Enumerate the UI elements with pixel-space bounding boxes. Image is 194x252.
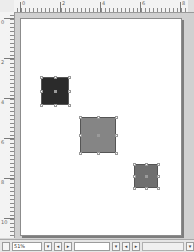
resize-handle[interactable] (133, 175, 136, 178)
ruler-major-tick (4, 18, 14, 19)
resize-handle[interactable] (68, 104, 71, 107)
ruler-label: 8 (1, 179, 4, 185)
arrow-right-icon: ▸ (67, 243, 70, 249)
ruler-label: 4 (102, 0, 105, 6)
ruler-major-tick (20, 2, 21, 12)
ruler-label: 0 (1, 19, 4, 25)
horizontal-scrollbar[interactable] (142, 242, 184, 251)
ruler-major-tick (60, 2, 61, 12)
page-next-button[interactable]: ▸ (64, 242, 72, 251)
arrow-left-icon: ◂ (125, 243, 128, 249)
ruler-label: 6 (142, 0, 145, 6)
layer-combo[interactable] (74, 242, 110, 251)
small-square[interactable] (134, 164, 158, 188)
status-bar: 51% ▾ ◂ ▸ ▾ ◂ ▸ ▾ (0, 239, 194, 252)
center-point-icon (145, 175, 148, 178)
ruler-major-tick (140, 2, 141, 12)
medium-square[interactable] (80, 117, 116, 153)
resize-handle[interactable] (133, 163, 136, 166)
ruler-major-tick (4, 58, 14, 59)
layer-dropdown-button[interactable]: ▾ (112, 242, 120, 251)
resize-handle[interactable] (40, 104, 43, 107)
resize-handle[interactable] (115, 152, 118, 155)
ruler-major-tick (4, 138, 14, 139)
resize-handle[interactable] (40, 90, 43, 93)
resize-handle[interactable] (157, 175, 160, 178)
ruler-label: 10 (1, 219, 7, 225)
zoom-dropdown-button[interactable]: ▾ (44, 242, 52, 251)
view-mode-button[interactable] (2, 242, 10, 251)
zoom-value: 51% (14, 243, 25, 249)
chevron-down-icon: ▾ (115, 243, 118, 249)
ruler-major-tick (180, 2, 181, 12)
resize-handle[interactable] (79, 116, 82, 119)
horizontal-ruler[interactable]: 02468 (14, 0, 194, 13)
zoom-combo[interactable]: 51% (12, 242, 42, 251)
resize-handle[interactable] (40, 76, 43, 79)
ruler-label: 0 (22, 0, 25, 6)
chevron-down-icon: ▾ (47, 243, 50, 249)
right-dropdown-button[interactable]: ▾ (186, 242, 194, 251)
ruler-major-tick (4, 178, 14, 179)
resize-handle[interactable] (79, 134, 82, 137)
resize-handle[interactable] (68, 90, 71, 93)
resize-handle[interactable] (157, 187, 160, 190)
document-page[interactable] (20, 18, 182, 236)
chevron-down-icon: ▾ (189, 243, 192, 249)
ruler-major-tick (4, 98, 14, 99)
resize-handle[interactable] (115, 134, 118, 137)
ruler-label: 8 (182, 0, 185, 6)
resize-handle[interactable] (115, 116, 118, 119)
nav-prev-button[interactable]: ◂ (122, 242, 130, 251)
ruler-label: 6 (1, 139, 4, 145)
vertical-ruler[interactable]: 0246810 (0, 12, 15, 238)
ruler-label: 2 (62, 0, 65, 6)
page-prev-button[interactable]: ◂ (54, 242, 62, 251)
resize-handle[interactable] (133, 187, 136, 190)
arrow-right-icon: ▸ (135, 243, 138, 249)
resize-handle[interactable] (157, 163, 160, 166)
resize-handle[interactable] (68, 76, 71, 79)
center-point-icon (97, 134, 100, 137)
resize-handle[interactable] (145, 187, 148, 190)
ruler-major-tick (100, 2, 101, 12)
resize-handle[interactable] (79, 152, 82, 155)
nav-next-button[interactable]: ▸ (132, 242, 140, 251)
resize-handle[interactable] (54, 104, 57, 107)
resize-handle[interactable] (97, 116, 100, 119)
ruler-label: 2 (1, 59, 4, 65)
ruler-end-cap (188, 0, 194, 12)
dark-square[interactable] (41, 77, 69, 105)
center-point-icon (54, 90, 57, 93)
ruler-label: 4 (1, 99, 4, 105)
resize-handle[interactable] (97, 152, 100, 155)
arrow-left-icon: ◂ (57, 243, 60, 249)
resize-handle[interactable] (145, 163, 148, 166)
resize-handle[interactable] (54, 76, 57, 79)
